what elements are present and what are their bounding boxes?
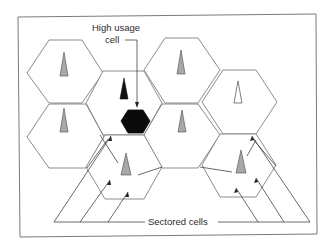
sectored-label: Sectored cells: [148, 216, 208, 227]
high-usage-label-line2: cell: [105, 34, 119, 45]
high-usage-label-line1: High usage: [92, 22, 140, 33]
cellular-diagram: High usage cell Sectored cells: [0, 0, 336, 246]
